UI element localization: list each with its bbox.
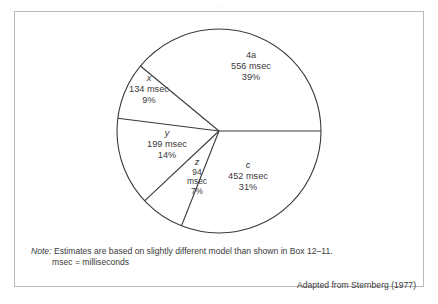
- figure-attribution: Adapted from Sternberg (1977): [297, 280, 416, 291]
- pie-slice-label-4a: 4a 556 msec 39%: [209, 50, 293, 84]
- slice-key-4a: 4a: [209, 50, 293, 61]
- slice-value-y: 199 msec: [128, 139, 206, 150]
- figure-footnote: Note: Estimates are based on slightly di…: [31, 246, 411, 269]
- pie-slice-label-x: x 134 msec 9%: [113, 73, 185, 107]
- footnote-line-2: msec = milliseconds: [31, 257, 411, 268]
- slice-percent-4a: 39%: [209, 72, 293, 83]
- figure-container: · · 4a 556 msec 39% x 134 msec 9% y 199 …: [0, 0, 438, 304]
- cropped-header-text: · ·: [0, 0, 438, 10]
- slice-percent-c: 31%: [206, 182, 290, 193]
- footnote-line-1: Estimates are based on slightly differen…: [52, 246, 333, 256]
- pie-slice-label-c: c 452 msec 31%: [206, 160, 290, 194]
- slice-key-c: c: [206, 160, 290, 171]
- slice-percent-x: 9%: [113, 95, 185, 106]
- slice-value-c: 452 msec: [206, 171, 290, 182]
- slice-value-x: 134 msec: [113, 84, 185, 95]
- slice-key-x: x: [113, 73, 185, 84]
- footnote-note-word: Note:: [31, 246, 52, 256]
- slice-value-4a: 556 msec: [209, 61, 293, 72]
- slice-key-y: y: [128, 128, 206, 139]
